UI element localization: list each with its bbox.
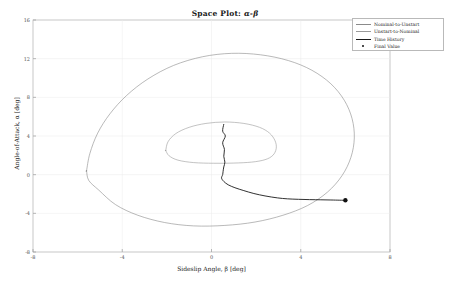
x-tick-label: 4 [291, 254, 311, 260]
x-tick-label: -4 [112, 254, 132, 260]
legend-item-label: Final Value [374, 43, 400, 50]
marker-final-value [343, 198, 347, 202]
y-tick-label: 16 [14, 17, 30, 23]
legend-item[interactable]: Unstart-to-Nominal [356, 28, 440, 35]
legend-item[interactable]: Final Value [356, 43, 440, 50]
series-unstart-to-nominal [165, 122, 276, 163]
legend-swatch-icon [356, 36, 371, 43]
legend-item[interactable]: Time History [356, 36, 440, 43]
legend-swatch-icon [356, 28, 371, 35]
legend-rows: Nominal-to-UnstartUnstart-to-NominalTime… [356, 21, 440, 50]
y-tick-label: -4 [14, 210, 30, 216]
y-tick-label: 4 [14, 133, 30, 139]
y-tick-label: 0 [14, 172, 30, 178]
x-tick-label: 8 [380, 254, 400, 260]
legend-swatch-icon [356, 43, 371, 50]
legend-swatch-icon [356, 21, 371, 28]
x-tick-label: 0 [202, 254, 222, 260]
series-nominal-to-unstart [86, 53, 354, 226]
legend-item-label: Time History [374, 36, 404, 43]
y-tick-label: -8 [14, 249, 30, 255]
chart-legend: Nominal-to-UnstartUnstart-to-NominalTime… [352, 18, 444, 51]
legend-item[interactable]: Nominal-to-Unstart [356, 21, 440, 28]
figure-canvas: Space Plot: α-β Angle-of-Attack, α [deg]… [0, 0, 450, 291]
legend-item-label: Unstart-to-Nominal [374, 28, 419, 35]
y-tick-label: 8 [14, 94, 30, 100]
y-tick-label: 12 [14, 56, 30, 62]
legend-item-label: Nominal-to-Unstart [374, 21, 419, 28]
